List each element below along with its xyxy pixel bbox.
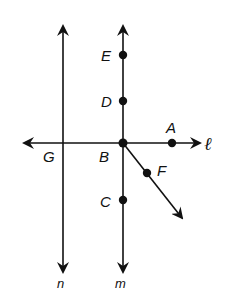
label-e: E <box>101 47 112 64</box>
label-m: m <box>115 276 126 291</box>
geometry-diagram: E D A ℓ G B F C n m <box>0 0 232 292</box>
ray-bf <box>123 143 182 218</box>
point-e <box>119 51 127 59</box>
point-b <box>119 139 128 148</box>
label-n: n <box>57 276 64 291</box>
point-f <box>143 169 151 177</box>
label-d: D <box>101 93 112 110</box>
label-ell: ℓ <box>204 134 212 154</box>
point-c <box>119 196 127 204</box>
point-d <box>119 97 127 105</box>
label-b: B <box>99 148 109 165</box>
label-g: G <box>43 148 55 165</box>
label-a: A <box>165 119 176 136</box>
label-f: F <box>157 162 167 179</box>
point-a <box>168 139 176 147</box>
label-c: C <box>100 193 111 210</box>
